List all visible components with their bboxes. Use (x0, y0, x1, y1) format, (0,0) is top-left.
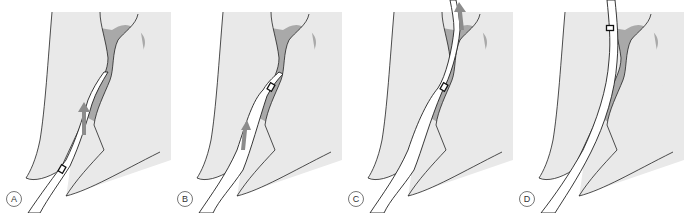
diagram-panel-a: A (0, 0, 171, 213)
diagram-panel-d: D (513, 0, 684, 213)
diagram-panel-b: B (171, 0, 342, 213)
panel-illustration (342, 0, 513, 213)
diagram-panel-c: C (342, 0, 513, 213)
panel-label-d: D (519, 191, 535, 207)
panel-illustration (0, 0, 171, 213)
panel-label-a: A (6, 191, 22, 207)
rubber-stop-marker (607, 26, 614, 31)
panel-label-c: C (348, 191, 364, 207)
panel-illustration (171, 0, 342, 213)
panel-label-b: B (177, 191, 193, 207)
panel-illustration (513, 0, 684, 213)
